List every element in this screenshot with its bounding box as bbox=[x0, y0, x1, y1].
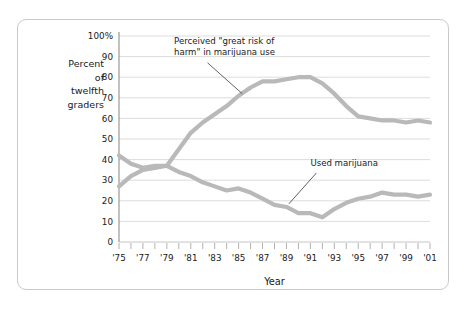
line-chart: 0102030405060708090100%'75'77'79'81'83'8… bbox=[18, 20, 448, 289]
annotation-label: harm" in marijuana use bbox=[174, 47, 275, 57]
x-tick-label: '93 bbox=[327, 253, 341, 263]
y-tick-label: 30 bbox=[102, 175, 114, 185]
y-tick-label: 50 bbox=[102, 134, 114, 144]
x-tick-label: '95 bbox=[351, 253, 365, 263]
y-tick-label: 10 bbox=[102, 217, 114, 227]
x-tick-label: '85 bbox=[232, 253, 246, 263]
chart-figure-frame: 0102030405060708090100%'75'77'79'81'83'8… bbox=[17, 19, 449, 290]
y-tick-label: 40 bbox=[102, 155, 114, 165]
y-tick-label: 60 bbox=[102, 114, 114, 124]
x-tick-label: '83 bbox=[208, 253, 222, 263]
x-axis-title: Year bbox=[263, 276, 286, 287]
annotation-leader-line bbox=[289, 173, 317, 204]
series-line bbox=[119, 155, 430, 217]
x-tick-label: '89 bbox=[280, 253, 294, 263]
y-tick-label: 20 bbox=[102, 196, 114, 206]
y-axis-title: Percent bbox=[68, 58, 104, 69]
annotation-label: Used marijuana bbox=[310, 158, 378, 168]
annotation-label: Perceived "great risk of bbox=[174, 36, 275, 46]
y-axis-title: of bbox=[95, 72, 105, 83]
y-axis-title: graders bbox=[68, 99, 105, 110]
x-tick-label: '87 bbox=[256, 253, 270, 263]
x-tick-label: '77 bbox=[136, 253, 150, 263]
y-tick-label: 100% bbox=[88, 31, 113, 41]
annotation-leader-line bbox=[208, 63, 243, 94]
x-tick-label: '79 bbox=[160, 253, 174, 263]
x-tick-label: '75 bbox=[112, 253, 126, 263]
x-tick-label: '91 bbox=[304, 253, 318, 263]
x-tick-label: '97 bbox=[375, 253, 389, 263]
x-tick-label: '01 bbox=[423, 253, 437, 263]
series-line bbox=[119, 77, 430, 186]
y-axis-title: twelfth bbox=[71, 85, 104, 96]
x-tick-label: '99 bbox=[399, 253, 413, 263]
y-tick-label: 0 bbox=[107, 237, 113, 247]
x-tick-label: '81 bbox=[184, 253, 198, 263]
